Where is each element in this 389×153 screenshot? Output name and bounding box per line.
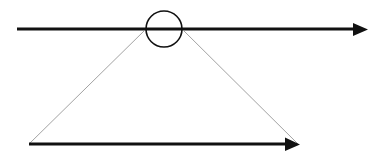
right-projection-line xyxy=(183,30,298,144)
top-arrow-head xyxy=(353,23,368,36)
bottom-arrow xyxy=(29,138,300,152)
left-projection-line xyxy=(29,30,145,144)
top-arrow xyxy=(17,23,368,36)
bottom-arrow-head xyxy=(285,138,300,152)
projection-diagram xyxy=(0,0,389,153)
